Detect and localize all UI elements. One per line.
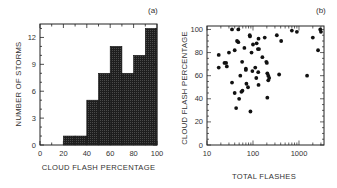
scatter-point <box>234 106 238 110</box>
y-tick-label: 20 <box>195 117 203 126</box>
scatter-point <box>236 40 240 44</box>
scatter-point <box>237 97 241 101</box>
scatter-point <box>275 33 279 37</box>
histogram-y-axis-title: NUMBER OF STORMS <box>14 42 23 127</box>
histogram-y-tick-labels: 036912 <box>28 33 36 150</box>
scatter-point <box>236 28 240 32</box>
y-tick-label: 3 <box>32 114 36 123</box>
scatter-frame <box>207 26 324 145</box>
scatter-y-axis-title: CLOUD FLASH PERCENTAGE <box>180 31 189 145</box>
histogram-x-tick-labels: 020406080100 <box>38 149 163 158</box>
scatter-point <box>265 96 269 100</box>
x-tick-label: 1000 <box>291 149 308 158</box>
y-tick-label: 60 <box>195 71 203 80</box>
y-tick-label: 100 <box>190 25 203 34</box>
scatter-point <box>225 65 229 69</box>
x-tick-label: 100 <box>151 149 164 158</box>
y-tick-label: 80 <box>195 48 203 57</box>
histogram-bar <box>63 136 75 145</box>
scatter-point <box>217 53 221 57</box>
scatter-point <box>257 47 261 51</box>
scatter-point <box>277 73 281 77</box>
scatter-point <box>279 39 283 43</box>
histogram-panel: (a) 020406080100 036912 CLOUD FLASH PERC… <box>14 6 163 172</box>
y-tick-label: 40 <box>195 94 203 103</box>
histogram-bar <box>75 136 87 145</box>
scatter-point <box>248 34 252 38</box>
scatter-point <box>311 36 315 40</box>
x-tick-label: 20 <box>59 149 67 158</box>
scatter-ticks <box>207 26 324 145</box>
y-tick-label: 0 <box>199 141 203 150</box>
scatter-point <box>263 36 267 40</box>
scatter-point <box>241 89 245 93</box>
scatter-point <box>255 41 259 45</box>
scatter-point <box>250 69 254 73</box>
scatter-point <box>217 66 221 70</box>
scatter-panel: (b) 101001000 020406080100 TOTAL FLASHES… <box>180 6 326 181</box>
histogram-bar <box>110 46 122 145</box>
y-tick-label: 9 <box>32 60 36 69</box>
scatter-point <box>316 48 320 52</box>
scatter-point <box>245 82 249 86</box>
scatter-point <box>244 68 248 72</box>
scatter-point <box>240 60 244 64</box>
scatter-point <box>251 43 255 47</box>
scatter-point <box>254 76 258 80</box>
histogram-bar <box>145 28 157 145</box>
scatter-point <box>238 74 242 78</box>
scatter-point <box>224 61 228 65</box>
x-tick-label: 40 <box>83 149 91 158</box>
scatter-points <box>217 28 323 114</box>
histogram-x-axis-title: CLOUD FLASH PERCENTAGE <box>42 163 156 172</box>
x-tick-label: 10 <box>203 149 211 158</box>
scatter-point <box>290 29 294 33</box>
scatter-point <box>249 110 253 114</box>
scatter-point <box>295 30 299 34</box>
scatter-point <box>265 61 269 65</box>
scatter-point <box>256 70 260 74</box>
scatter-point <box>318 28 322 32</box>
histogram-bar <box>99 73 111 145</box>
y-tick-label: 6 <box>32 87 36 96</box>
scatter-x-axis-title: TOTAL FLASHES <box>232 172 296 181</box>
scatter-point <box>250 51 254 55</box>
scatter-point <box>305 74 309 78</box>
x-tick-label: 100 <box>247 149 260 158</box>
scatter-point <box>260 55 264 59</box>
y-tick-label: 12 <box>28 33 36 42</box>
scatter-point <box>227 51 231 55</box>
scatter-point <box>242 46 246 50</box>
scatter-point <box>253 66 257 70</box>
histogram-bars <box>63 28 157 145</box>
scatter-point <box>246 85 250 89</box>
scatter-y-tick-labels: 020406080100 <box>190 25 203 150</box>
scatter-x-tick-labels: 101001000 <box>203 149 307 158</box>
scatter-point <box>257 83 261 87</box>
scatter-point <box>257 37 261 41</box>
histogram-bar <box>87 100 99 145</box>
panel-label-a: (a) <box>148 6 158 15</box>
x-tick-label: 80 <box>129 149 137 158</box>
x-tick-label: 60 <box>106 149 114 158</box>
y-tick-label: 0 <box>32 141 36 150</box>
scatter-point <box>266 78 270 82</box>
scatter-point <box>230 81 234 85</box>
panel-label-b: (b) <box>316 6 326 15</box>
histogram-bar <box>122 73 134 145</box>
figure: (a) 020406080100 036912 CLOUD FLASH PERC… <box>0 0 337 188</box>
histogram-bar <box>134 55 146 145</box>
x-tick-label: 0 <box>38 149 42 158</box>
scatter-point <box>230 28 234 32</box>
scatter-point <box>233 48 237 52</box>
scatter-point <box>233 91 237 95</box>
